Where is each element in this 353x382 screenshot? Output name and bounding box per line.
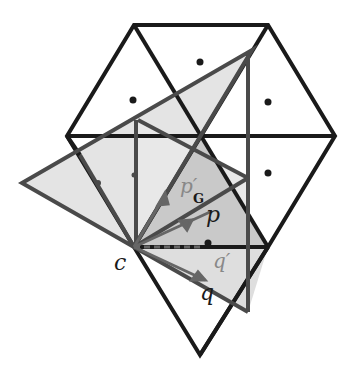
label-q-prime: q′ bbox=[213, 249, 231, 273]
label-c: c bbox=[114, 250, 126, 275]
label-p-prime-g-subscript: G bbox=[193, 191, 204, 206]
lattice-diagram: c p p′ G q′ q bbox=[0, 0, 353, 382]
label-p: p bbox=[206, 202, 220, 227]
label-q: q bbox=[200, 280, 214, 305]
